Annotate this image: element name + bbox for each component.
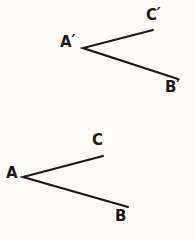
vertex-label-c-prime-base: C: [146, 6, 157, 24]
vertex-label-b-base: B: [115, 207, 126, 225]
vertex-label-c-base: C: [92, 131, 103, 149]
angle-primed-polyline: [83, 30, 178, 79]
vertex-label-b-prime-base: B: [165, 78, 176, 96]
angle-unprimed-polyline: [23, 156, 128, 207]
vertex-label-a-prime-base: A: [60, 33, 71, 51]
figure-canvas: A′ C′ B′ A C B: [0, 0, 195, 240]
vertex-label-b-prime-mark: ′: [176, 77, 180, 95]
angle-diagram-svg: [0, 0, 195, 240]
vertex-label-b: B: [115, 209, 126, 224]
vertex-label-a-prime-mark: ′: [71, 32, 75, 50]
angle-primed-group: [83, 30, 178, 79]
angle-unprimed-group: [23, 156, 128, 207]
vertex-label-c-prime: C′: [146, 8, 161, 23]
vertex-label-a-base: A: [6, 164, 17, 182]
vertex-label-c: C: [92, 133, 103, 148]
vertex-label-c-prime-mark: ′: [157, 5, 161, 23]
vertex-label-b-prime: B′: [165, 80, 180, 95]
vertex-label-a-prime: A′: [60, 35, 75, 50]
vertex-label-a: A: [6, 166, 17, 181]
